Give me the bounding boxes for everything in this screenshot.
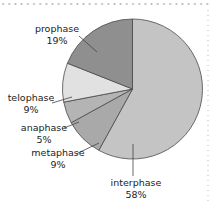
label-interphase-name: interphase [111,177,162,188]
label-metaphase: metaphase 9% [31,147,84,170]
label-anaphase-pct: 5% [36,134,51,145]
label-telophase: telophase 9% [8,92,55,115]
label-interphase-pct: 58% [125,189,146,200]
label-metaphase-pct: 9% [50,159,65,170]
label-interphase: interphase 58% [111,177,162,200]
label-telophase-name: telophase [8,92,55,103]
pie-chart: interphase 58% metaphase 9% anaphase 5% … [0,0,210,207]
label-prophase-pct: 19% [46,35,67,46]
label-telophase-pct: 9% [23,104,38,115]
label-prophase-name: prophase [35,23,79,34]
label-anaphase-name: anaphase [21,122,67,133]
label-metaphase-name: metaphase [31,147,84,158]
label-anaphase: anaphase 5% [21,122,67,145]
label-prophase: prophase 19% [35,23,79,46]
